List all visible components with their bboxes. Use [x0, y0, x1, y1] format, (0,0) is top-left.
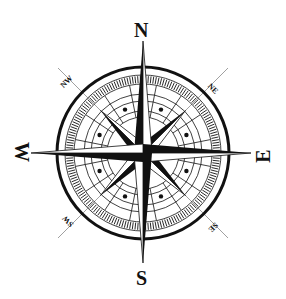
label-north: N — [134, 20, 148, 40]
compass-rose — [0, 0, 286, 299]
label-south: S — [136, 268, 147, 288]
label-west: W — [12, 142, 32, 162]
label-east: E — [253, 149, 273, 162]
